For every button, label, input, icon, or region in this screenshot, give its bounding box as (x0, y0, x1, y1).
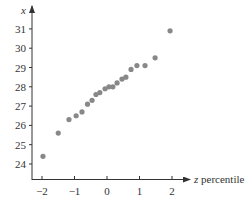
y-tick-label: 27 (15, 100, 27, 112)
y-axis-label: x (20, 4, 26, 16)
data-point (85, 102, 90, 107)
data-points (40, 28, 172, 159)
x-tick-label: −1 (69, 185, 81, 197)
data-point (114, 80, 119, 85)
x-axis-label: z percentile (193, 173, 245, 185)
data-point (89, 98, 94, 103)
x-axis: z percentile −2−1012 (32, 173, 245, 197)
y-tick-label: 25 (15, 139, 27, 151)
data-point (134, 63, 139, 68)
x-tick-label: 1 (137, 185, 143, 197)
y-tick-label: 26 (15, 119, 27, 131)
y-axis: x 2425262728293031 (15, 4, 32, 180)
y-tick-label: 29 (15, 62, 27, 74)
x-tick-label: 0 (104, 185, 110, 197)
data-point (167, 28, 172, 33)
data-point (123, 75, 128, 80)
y-tick-label: 30 (15, 42, 27, 54)
x-tick-label: −2 (36, 185, 48, 197)
normal-quantile-plot: x 2425262728293031 z percentile −2−1012 (0, 0, 252, 204)
data-point (110, 84, 115, 89)
data-point (128, 67, 133, 72)
data-point (40, 154, 45, 159)
x-tick-label: 2 (169, 185, 175, 197)
data-point (97, 90, 102, 95)
y-tick-label: 31 (15, 23, 26, 35)
data-point (74, 113, 79, 118)
data-point (66, 117, 71, 122)
data-point (56, 131, 61, 136)
y-tick-label: 28 (15, 81, 27, 93)
data-point (79, 109, 84, 114)
x-axis-label-text: percentile (198, 173, 244, 185)
data-point (153, 55, 158, 60)
data-point (142, 63, 147, 68)
y-tick-label: 24 (15, 158, 27, 170)
y-ticks: 2425262728293031 (15, 23, 32, 170)
